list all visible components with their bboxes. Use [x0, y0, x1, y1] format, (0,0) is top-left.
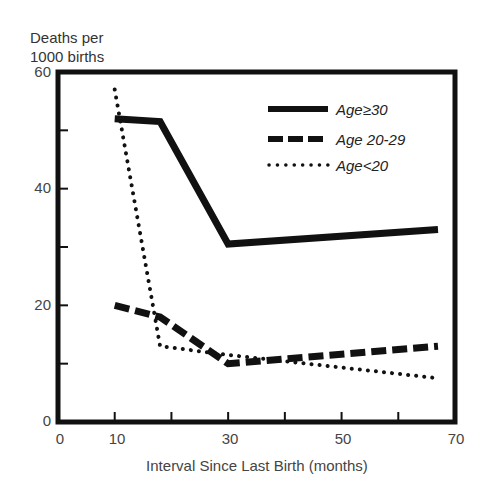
series-line-dashed [115, 305, 438, 363]
legend-label-age-20-29: Age 20-29 [335, 131, 406, 148]
axis-ticks [58, 130, 398, 422]
legend: Age≥30 Age 20-29 Age<20 [268, 101, 406, 174]
legend-label-age-30-plus: Age≥30 [335, 101, 388, 118]
plot-frame [58, 72, 455, 422]
legend-label-age-under-20: Age<20 [335, 157, 389, 174]
plot-area: Age≥30 Age 20-29 Age<20 [0, 0, 488, 492]
